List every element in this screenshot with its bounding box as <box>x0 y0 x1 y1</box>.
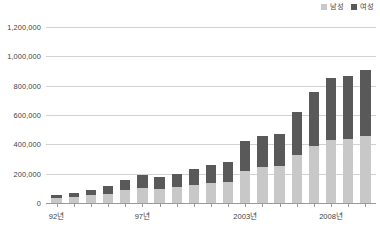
bar-segment-female <box>326 78 336 139</box>
bar-segment-female <box>257 136 267 166</box>
x-label-slot <box>254 210 271 230</box>
stacked-bar <box>137 175 147 203</box>
x-label-slot: 92년 <box>48 210 65 230</box>
bar-segment-male <box>120 190 130 203</box>
stacked-bar <box>309 92 319 203</box>
x-label-slot <box>288 210 305 230</box>
stacked-bar <box>206 165 216 203</box>
bar-slot <box>340 27 357 203</box>
legend-item-male: 남성 <box>321 3 344 10</box>
stacked-bar <box>154 177 164 203</box>
bar-slot <box>82 27 99 203</box>
bar-segment-female <box>206 165 216 183</box>
x-axis-tick-mark <box>365 203 366 207</box>
x-label-slot <box>340 210 357 230</box>
x-tick-slot <box>271 203 288 208</box>
x-axis-tick-mark <box>74 203 75 207</box>
stacked-bar <box>343 76 353 203</box>
x-axis-tick-mark <box>160 203 161 207</box>
bar-segment-male <box>86 195 96 203</box>
bar-segment-female <box>103 186 113 194</box>
square-swatch-icon-female <box>351 4 357 10</box>
bar-segment-female <box>309 92 319 146</box>
x-label-slot <box>151 210 168 230</box>
bar-segment-male <box>326 140 336 203</box>
bar-slot <box>357 27 374 203</box>
x-tick-slot <box>99 203 116 208</box>
bar-segment-female <box>189 169 199 185</box>
bar-slot <box>202 27 219 203</box>
chart-legend: 남성 여성 <box>321 3 374 10</box>
y-axis-tick-label: 600,000 <box>14 111 41 120</box>
x-axis-tick-mark <box>194 203 195 207</box>
x-axis-tick-mark <box>262 203 263 207</box>
square-swatch-icon-male <box>321 4 327 10</box>
x-tick-slot <box>288 203 305 208</box>
bar-segment-female <box>240 141 250 171</box>
bar-segment-female <box>223 162 233 183</box>
bar-series-group <box>46 27 376 203</box>
x-tick-slot <box>237 203 254 208</box>
legend-item-female: 여성 <box>351 3 374 10</box>
bar-slot <box>168 27 185 203</box>
bar-segment-female <box>137 175 147 187</box>
x-axis-tick-mark <box>125 203 126 207</box>
stacked-bar <box>326 78 336 203</box>
x-label-slot: 2003년 <box>237 210 254 230</box>
x-tick-slot <box>305 203 322 208</box>
x-axis-tick-mark <box>331 203 332 207</box>
y-axis-tick-label: 200,000 <box>14 169 41 178</box>
bar-slot <box>220 27 237 203</box>
x-axis-tick-mark <box>280 203 281 207</box>
x-axis-tick-mark <box>108 203 109 207</box>
bar-segment-male <box>292 155 302 203</box>
x-label-slot <box>99 210 116 230</box>
stacked-bar <box>223 162 233 203</box>
x-axis-tick-mark <box>177 203 178 207</box>
x-label-slot <box>357 210 374 230</box>
x-label-slot <box>168 210 185 230</box>
stacked-bar <box>172 174 182 203</box>
x-label-slot <box>185 210 202 230</box>
x-axis-tick-marks <box>46 203 376 208</box>
bar-slot <box>134 27 151 203</box>
x-tick-slot <box>254 203 271 208</box>
y-axis-tick-label: 1,200,000 <box>7 23 41 32</box>
bar-segment-male <box>154 189 164 203</box>
x-tick-slot <box>117 203 134 208</box>
bar-slot <box>288 27 305 203</box>
bar-slot <box>117 27 134 203</box>
bar-slot <box>271 27 288 203</box>
plot-area: 1,200,0001,000,000800,000600,000400,0002… <box>46 27 376 203</box>
x-tick-slot <box>151 203 168 208</box>
x-axis-tick-label: 92년 <box>49 210 64 221</box>
x-axis-tick-mark <box>211 203 212 207</box>
x-label-slot <box>271 210 288 230</box>
bar-segment-male <box>172 187 182 203</box>
x-label-slot <box>202 210 219 230</box>
bar-segment-male <box>206 183 216 203</box>
stacked-bar <box>86 190 96 203</box>
bar-segment-male <box>137 188 147 203</box>
stacked-bar <box>240 141 250 203</box>
x-tick-slot <box>220 203 237 208</box>
x-tick-slot <box>185 203 202 208</box>
bar-segment-male <box>343 139 353 203</box>
bar-segment-female <box>274 134 284 166</box>
x-axis-tick-mark <box>348 203 349 207</box>
bar-slot <box>305 27 322 203</box>
bar-segment-male <box>274 166 284 203</box>
bar-segment-male <box>360 136 370 203</box>
bar-segment-male <box>223 182 233 203</box>
stacked-bar <box>257 136 267 203</box>
bar-segment-male <box>103 194 113 203</box>
x-tick-slot <box>48 203 65 208</box>
stacked-bar <box>120 180 130 203</box>
bar-slot <box>48 27 65 203</box>
bar-segment-female <box>292 112 302 155</box>
y-axis-tick-label: 800,000 <box>14 81 41 90</box>
bar-slot <box>99 27 116 203</box>
stacked-bar <box>51 195 61 204</box>
bar-segment-female <box>360 70 370 136</box>
x-tick-slot <box>323 203 340 208</box>
